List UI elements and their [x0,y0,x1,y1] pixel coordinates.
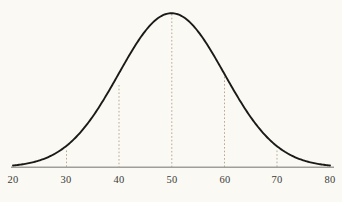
x-tick-label-80: 80 [315,175,342,186]
plot-area [0,0,342,202]
x-tick-label-50: 50 [157,175,187,186]
x-tick-label-30: 30 [51,175,81,186]
x-tick-label-20: 20 [0,175,28,186]
dashed-reference-lines [67,14,278,167]
bell-curve-chart: 20 30 40 50 60 70 80 [0,0,342,202]
x-tick-label-70: 70 [262,175,292,186]
x-tick-label-40: 40 [104,175,134,186]
x-tick-label-60: 60 [210,175,240,186]
